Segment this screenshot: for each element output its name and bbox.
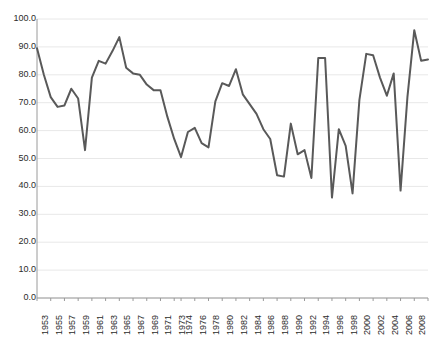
x-tick-label: 1994 <box>322 315 331 335</box>
x-tick-label: 1976 <box>199 315 208 335</box>
x-tick-label: 1982 <box>240 315 249 335</box>
x-tick-label: 1990 <box>295 315 304 335</box>
x-tick-label: 1961 <box>96 315 105 335</box>
x-tick-label: 2004 <box>391 315 400 335</box>
x-tick-label: 1967 <box>137 315 146 335</box>
x-tick-label: 1974 <box>185 315 194 335</box>
x-tick-label: 1965 <box>123 315 132 335</box>
x-axis-tick-labels: 1953195519571959196119631965196719691971… <box>0 0 431 341</box>
x-tick-label: 2002 <box>377 315 386 335</box>
x-tick-label: 1984 <box>254 315 263 335</box>
x-tick-label: 1996 <box>336 315 345 335</box>
x-tick-label: 1998 <box>350 315 359 335</box>
x-tick-label: 1988 <box>281 315 290 335</box>
x-tick-label: 1969 <box>151 315 160 335</box>
x-tick-label: 1992 <box>309 315 318 335</box>
x-tick-label: 1953 <box>41 315 50 335</box>
x-tick-label: 1978 <box>212 315 221 335</box>
x-tick-label: 2000 <box>363 315 372 335</box>
x-tick-label: 1971 <box>164 315 173 335</box>
line-chart: 100.090.080.070.060.050.040.030.020.010.… <box>0 0 431 341</box>
x-tick-label: 2006 <box>405 315 414 335</box>
x-tick-label: 1980 <box>226 315 235 335</box>
x-tick-label: 2008 <box>418 315 427 335</box>
x-tick-label: 1957 <box>68 315 77 335</box>
x-tick-label: 1963 <box>110 315 119 335</box>
x-tick-label: 1955 <box>55 315 64 335</box>
x-tick-label: 1986 <box>267 315 276 335</box>
x-tick-label: 1959 <box>82 315 91 335</box>
